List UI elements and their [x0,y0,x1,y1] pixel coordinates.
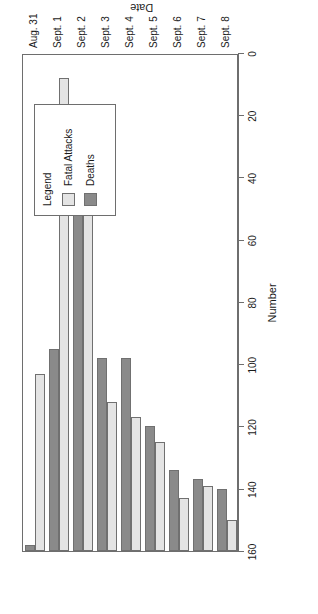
light-gray-swatch [62,193,75,206]
bar-fatal-attacks [155,442,164,551]
bar-fatal-attacks [107,402,116,551]
value-axis-tick-label: 100 [247,348,258,382]
category-axis-title: Date [130,2,153,14]
category-axis-tick-label: Sept. 3 [100,16,112,48]
category-axis-tick-label: Sept. 6 [172,16,184,48]
legend-entry-label: Fatal Attacks [63,129,74,186]
bar-fatal-attacks [203,486,212,551]
category-axis-tick-label: Sept. 7 [196,16,208,48]
value-axis-line [238,54,239,552]
value-axis-tick [238,551,244,552]
bar-group [215,55,239,551]
value-axis-tick [238,364,244,365]
value-axis-tick [238,240,244,241]
value-axis-tick-label: 80 [247,286,258,320]
bar-fatal-attacks [83,190,92,551]
category-axis-tick-label: Sept. 8 [220,16,232,48]
legend-title: Legend [42,173,53,206]
bar-fatal-attacks [35,374,44,551]
bar-group [167,55,191,551]
bar-deaths [145,427,154,552]
bar-deaths [169,470,178,551]
bar-deaths [73,174,82,551]
bar-deaths [193,479,202,551]
dark-gray-swatch [84,193,97,206]
bar-deaths [49,349,58,551]
value-axis-tick-label: 120 [247,411,258,445]
bar-fatal-attacks [227,520,236,551]
value-axis-tick-label: 0 [247,37,258,71]
value-axis-tick [238,302,244,303]
plot-area: 020406080100120140160 Number Aug. 31Sept… [0,0,318,614]
value-axis-tick [238,427,244,428]
legend-entry-label: Deaths [85,154,96,186]
bar-fatal-attacks [131,417,140,551]
value-axis-tick-label: 40 [247,162,258,196]
category-axis-tick-label: Sept. 5 [148,16,160,48]
bar-deaths [121,358,130,551]
value-axis-title: Number [266,54,278,552]
bar-group [119,55,143,551]
value-axis-tick-label: 20 [247,99,258,133]
bar-deaths [217,489,226,551]
bar-group [191,55,215,551]
value-axis-tick-label: 140 [247,473,258,507]
value-axis-tick [238,489,244,490]
bar-deaths [97,358,106,551]
value-axis-tick [238,53,244,54]
bar-fatal-attacks [179,498,188,551]
value-axis-tick-label: 160 [247,535,258,569]
bar-group [143,55,167,551]
value-axis-tick-label: 60 [247,224,258,258]
category-axis-tick-label: Aug. 31 [28,14,40,48]
category-axis-tick-label: Sept. 2 [76,16,88,48]
value-axis-tick [238,178,244,179]
bar-deaths [25,545,34,551]
category-axis-tick-label: Sept. 1 [52,16,64,48]
legend-box: Legend Fatal AttacksDeaths [34,104,116,216]
category-axis-tick-label: Sept. 4 [124,16,136,48]
chart-canvas: 020406080100120140160 Number Aug. 31Sept… [0,0,318,614]
value-axis-tick [238,115,244,116]
